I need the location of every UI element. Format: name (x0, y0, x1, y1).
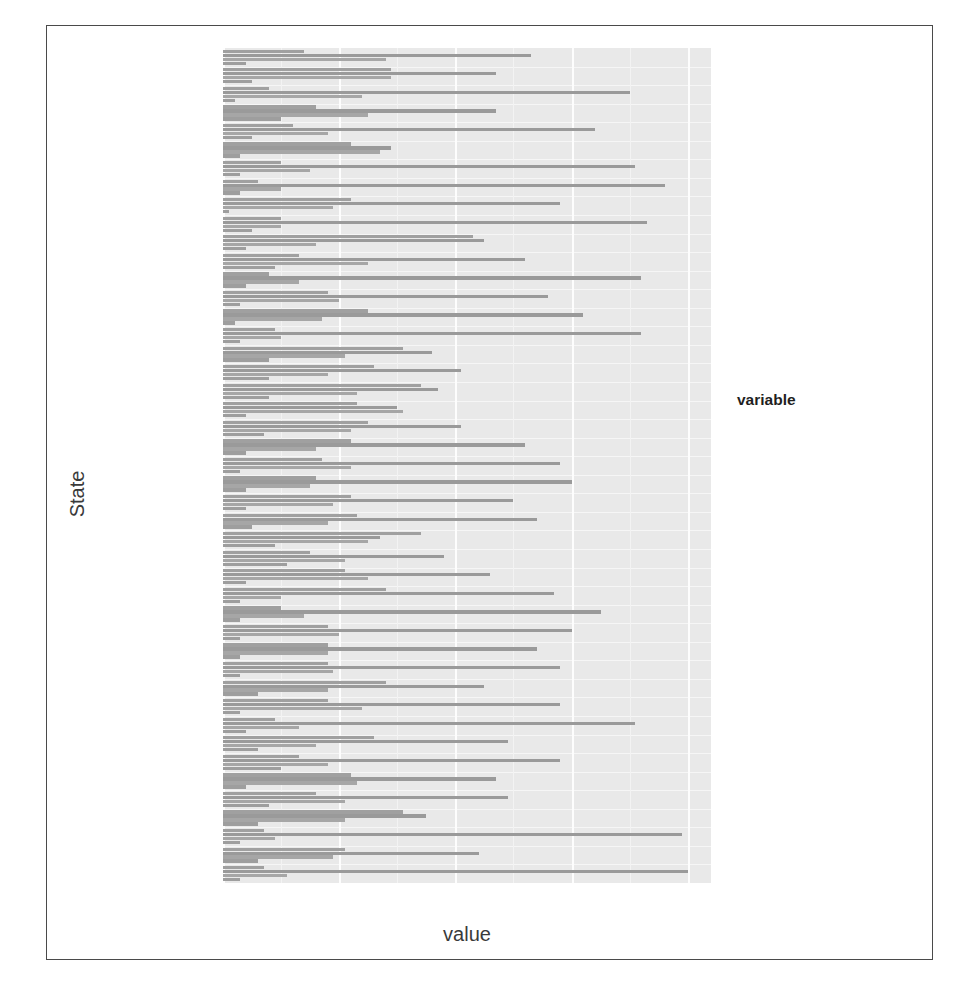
bar-nonreligious (223, 651, 328, 654)
bar-nonreligious (223, 354, 345, 357)
bar-protestant (223, 72, 496, 75)
bar-nonreligious (223, 317, 322, 320)
state-bar-group (223, 623, 711, 642)
bar-nonreligious (223, 58, 386, 61)
state-bar-group (223, 271, 711, 290)
bar-protestant (223, 555, 444, 558)
state-bar-group (223, 549, 711, 568)
bar-nonreligious (223, 503, 333, 506)
bar-other (223, 563, 287, 566)
bar-catholic (223, 217, 281, 220)
bar-other (223, 117, 281, 120)
state-bar-group (223, 642, 711, 661)
state-bar-group (223, 772, 711, 791)
bar-catholic (223, 439, 351, 442)
state-bar-group (223, 382, 711, 401)
state-bar-group (223, 512, 711, 531)
bar-other (223, 488, 246, 491)
state-bar-group (223, 864, 711, 883)
bar-nonreligious (223, 855, 333, 858)
bar-nonreligious (223, 243, 316, 246)
bar-catholic (223, 514, 357, 517)
bar-protestant (223, 258, 525, 261)
state-bar-group (223, 827, 711, 846)
state-bar-group (223, 401, 711, 420)
bar-nonreligious (223, 818, 345, 821)
bar-catholic (223, 643, 328, 646)
bar-nonreligious (223, 726, 299, 729)
bar-nonreligious (223, 763, 328, 766)
bar-other (223, 247, 246, 250)
bar-other (223, 674, 240, 677)
state-bar-group (223, 735, 711, 754)
chart-legend: variable (737, 391, 927, 418)
bar-nonreligious (223, 837, 275, 840)
bar-other (223, 80, 252, 83)
bar-protestant (223, 666, 560, 669)
bar-protestant (223, 814, 426, 817)
bar-protestant (223, 128, 595, 131)
bar-nonreligious (223, 577, 368, 580)
bar-nonreligious (223, 132, 328, 135)
bar-protestant (223, 406, 397, 409)
bar-catholic (223, 254, 299, 257)
bar-other (223, 859, 258, 862)
bar-nonreligious (223, 150, 380, 153)
bar-catholic (223, 476, 316, 479)
bar-other (223, 618, 240, 621)
bar-other (223, 822, 258, 825)
bar-protestant (223, 685, 484, 688)
state-bar-group (223, 846, 711, 865)
bar-protestant (223, 443, 525, 446)
state-bar-group (223, 586, 711, 605)
bar-protestant (223, 388, 438, 391)
bar-other (223, 804, 269, 807)
bar-other (223, 377, 269, 380)
bar-other (223, 433, 264, 436)
bar-other (223, 507, 246, 510)
state-bar-group (223, 67, 711, 86)
bar-catholic (223, 718, 275, 721)
bar-protestant (223, 202, 560, 205)
state-bar-group (223, 252, 711, 271)
bar-other (223, 340, 240, 343)
state-bar-group (223, 215, 711, 234)
bar-other (223, 692, 258, 695)
bar-protestant (223, 703, 560, 706)
bar-nonreligious (223, 410, 403, 413)
bar-catholic (223, 458, 322, 461)
bar-other (223, 748, 258, 751)
bar-catholic (223, 124, 293, 127)
state-bar-group (223, 753, 711, 772)
bar-other (223, 878, 240, 881)
bar-nonreligious (223, 392, 357, 395)
bar-protestant (223, 146, 391, 149)
bar-nonreligious (223, 466, 351, 469)
bar-other (223, 358, 269, 361)
state-bar-group (223, 605, 711, 624)
bar-other (223, 525, 252, 528)
bar-nonreligious (223, 447, 316, 450)
bar-other (223, 99, 235, 102)
state-bar-group (223, 475, 711, 494)
bar-catholic (223, 180, 258, 183)
bar-other (223, 303, 240, 306)
bar-protestant (223, 610, 601, 613)
bar-nonreligious (223, 187, 281, 190)
bar-catholic (223, 365, 374, 368)
state-bar-group (223, 697, 711, 716)
state-bar-group (223, 196, 711, 215)
bar-catholic (223, 662, 328, 665)
bar-catholic (223, 68, 391, 71)
bar-catholic (223, 773, 351, 776)
bar-nonreligious (223, 262, 368, 265)
bar-protestant (223, 722, 635, 725)
bar-catholic (223, 384, 421, 387)
bar-protestant (223, 518, 537, 521)
y-axis-tick-labels (47, 48, 217, 883)
bar-other (223, 581, 246, 584)
bar-protestant (223, 425, 461, 428)
bar-other (223, 284, 246, 287)
state-bar-group (223, 178, 711, 197)
bar-other (223, 785, 246, 788)
